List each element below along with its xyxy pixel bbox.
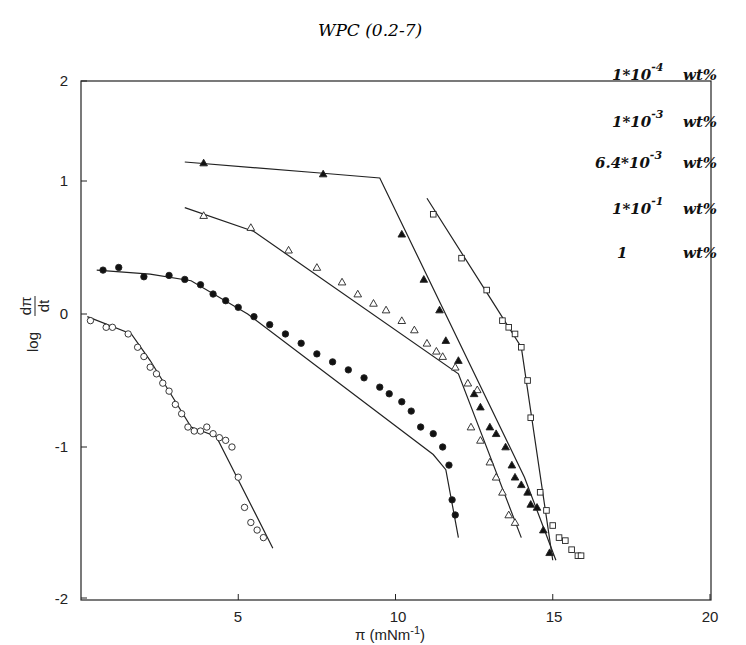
data-point bbox=[109, 324, 115, 330]
xtick-10: 10 bbox=[390, 608, 407, 625]
data-point bbox=[200, 159, 208, 166]
fit-line bbox=[87, 317, 273, 549]
data-point bbox=[417, 424, 423, 430]
data-point bbox=[370, 300, 378, 307]
data-point bbox=[338, 278, 346, 285]
data-point bbox=[578, 553, 584, 559]
data-point bbox=[260, 534, 266, 540]
data-point bbox=[430, 211, 436, 217]
data-point bbox=[411, 326, 419, 333]
data-point bbox=[100, 267, 106, 273]
data-point bbox=[298, 340, 304, 346]
data-point bbox=[103, 324, 109, 330]
data-point bbox=[182, 276, 188, 282]
legend-entry-5: 1wt% bbox=[617, 244, 717, 262]
data-point bbox=[285, 246, 293, 253]
data-point bbox=[500, 318, 506, 324]
data-point bbox=[518, 481, 526, 488]
data-point bbox=[166, 388, 172, 394]
data-point bbox=[210, 431, 216, 437]
data-point bbox=[345, 367, 351, 373]
data-point bbox=[506, 325, 512, 331]
data-point bbox=[484, 287, 490, 293]
series-circle-filled bbox=[97, 264, 459, 537]
data-point bbox=[141, 353, 147, 359]
data-point bbox=[399, 399, 405, 405]
data-point bbox=[511, 473, 519, 480]
data-point bbox=[508, 461, 516, 468]
data-point bbox=[247, 224, 255, 231]
data-point bbox=[452, 512, 458, 518]
data-point bbox=[569, 547, 575, 553]
data-point bbox=[563, 538, 569, 544]
data-point bbox=[525, 378, 531, 384]
data-point bbox=[544, 508, 550, 514]
ytick-0: 0 bbox=[60, 305, 68, 322]
data-point bbox=[512, 331, 518, 337]
xtick-15: 15 bbox=[546, 608, 563, 625]
data-point bbox=[282, 331, 288, 337]
data-point bbox=[382, 306, 390, 313]
data-point bbox=[197, 282, 203, 288]
svg-text:dπ: dπ bbox=[17, 297, 34, 316]
data-point bbox=[477, 403, 485, 410]
data-point bbox=[467, 423, 475, 430]
data-point bbox=[160, 380, 166, 386]
data-point bbox=[449, 497, 455, 503]
data-point bbox=[398, 230, 406, 237]
data-point bbox=[492, 473, 500, 480]
data-point bbox=[464, 379, 472, 386]
legend: 1*10-4wt% 1*10-3wt% 6.4*10-3wt% 1*10-1wt… bbox=[595, 61, 717, 262]
data-point bbox=[550, 523, 556, 529]
data-point bbox=[147, 364, 153, 370]
data-point bbox=[433, 347, 441, 354]
fit-line bbox=[185, 162, 556, 560]
series-square-open bbox=[427, 198, 584, 560]
data-point bbox=[191, 428, 197, 434]
data-point bbox=[556, 535, 562, 541]
data-point bbox=[354, 290, 362, 297]
series-circle-open bbox=[87, 317, 273, 549]
data-point bbox=[125, 331, 131, 337]
data-point bbox=[455, 357, 463, 364]
data-point bbox=[446, 462, 452, 468]
data-point bbox=[251, 313, 257, 319]
data-point bbox=[172, 401, 178, 407]
chart: WPC (0.2-7) 2 1 0 -1 -2 5 10 15 20 π (mN… bbox=[0, 0, 746, 645]
data-point bbox=[116, 264, 122, 270]
data-point bbox=[87, 317, 93, 323]
data-point bbox=[229, 444, 235, 450]
data-point bbox=[222, 298, 228, 304]
data-point bbox=[439, 444, 445, 450]
data-point bbox=[499, 489, 507, 496]
data-point bbox=[314, 351, 320, 357]
data-point bbox=[185, 424, 191, 430]
data-point bbox=[267, 321, 273, 327]
chart-title: WPC (0.2-7) bbox=[318, 20, 422, 40]
data-point bbox=[313, 264, 321, 271]
data-point bbox=[254, 527, 260, 533]
data-point bbox=[166, 272, 172, 278]
data-point bbox=[210, 291, 216, 297]
data-point bbox=[197, 428, 203, 434]
data-point bbox=[537, 490, 543, 496]
legend-entry-3: 6.4*10-3wt% bbox=[595, 149, 717, 172]
data-point bbox=[216, 434, 222, 440]
data-point bbox=[178, 411, 184, 417]
data-point bbox=[408, 408, 414, 414]
data-point bbox=[235, 474, 241, 480]
data-point bbox=[430, 431, 436, 437]
data-point bbox=[519, 344, 525, 350]
ytick-1: 1 bbox=[60, 172, 68, 189]
xtick-5: 5 bbox=[234, 608, 242, 625]
data-point bbox=[528, 415, 534, 421]
legend-entry-2: 1*10-3wt% bbox=[612, 108, 717, 131]
data-point bbox=[492, 430, 500, 437]
data-point bbox=[241, 504, 247, 510]
data-point bbox=[377, 384, 383, 390]
data-point bbox=[423, 339, 431, 346]
data-point bbox=[235, 304, 241, 310]
fit-line bbox=[185, 208, 522, 538]
data-point bbox=[204, 424, 210, 430]
data-point bbox=[153, 371, 159, 377]
